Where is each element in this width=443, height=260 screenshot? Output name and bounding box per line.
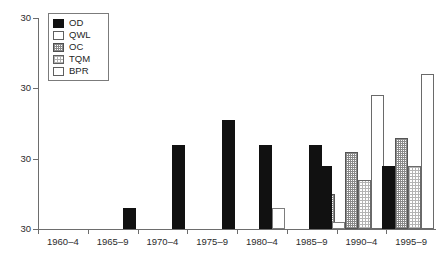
legend-item-tqm: TQM [53,53,104,65]
bar-od-19759 [222,120,235,229]
legend-label: BPR [69,66,89,76]
legend-swatch-od-icon [53,19,64,28]
y-axis-tick-label: 30 [7,153,31,164]
x-axis-tick-label: 1960–4 [47,236,79,247]
x-axis-tick [138,229,139,234]
legend-item-od: OD [53,17,104,29]
bar-qwl-19804 [272,208,285,229]
bar-od-19904 [319,166,332,229]
x-axis-tick [287,229,288,234]
chart-legend: ODQWLOCTQMBPR [48,13,109,81]
x-axis-tick-label: 1985–9 [296,236,328,247]
bar-chart: 30303030 1960–41965–91970–41975–91980–41… [0,0,443,260]
bar-od-19959 [382,166,395,229]
legend-label: TQM [69,54,90,64]
x-axis-tick-label: 1995–9 [395,236,427,247]
y-axis-tick-label: 30 [7,223,31,234]
y-axis-tick-label: 30 [7,12,31,23]
x-axis-tick-label: 1965–9 [97,236,129,247]
legend-label: OC [69,42,83,52]
legend-swatch-qwl-icon [53,31,64,40]
y-axis-tick-label: 30 [7,82,31,93]
x-axis-tick-label: 1980–4 [246,236,278,247]
bar-od-19704 [172,145,185,229]
bar-tqm-19904 [358,180,371,229]
x-axis-tick [187,229,188,234]
bar-od-19659 [123,208,136,229]
legend-swatch-bpr-icon [53,67,64,76]
legend-item-bpr: BPR [53,65,104,77]
x-axis-tick [386,229,387,234]
bar-oc-19904 [345,152,358,229]
x-axis-tick [337,229,338,234]
x-axis-tick-label: 1970–4 [147,236,179,247]
legend-item-oc: OC [53,41,104,53]
x-axis-tick [38,229,39,234]
legend-label: QWL [69,30,91,40]
x-axis-tick [88,229,89,234]
bar-tqm-19959 [408,166,421,229]
legend-swatch-tqm-icon [53,55,64,64]
bar-qwl-19904 [332,222,345,229]
bar-bpr-19959 [421,74,434,229]
legend-label: OD [69,18,83,28]
x-axis-tick-label: 1975–9 [196,236,228,247]
legend-item-qwl: QWL [53,29,104,41]
bar-od-19804 [259,145,272,229]
legend-swatch-oc-icon [53,43,64,52]
x-axis-tick [237,229,238,234]
bar-oc-19959 [395,138,408,229]
x-axis-tick-label: 1990–4 [346,236,378,247]
